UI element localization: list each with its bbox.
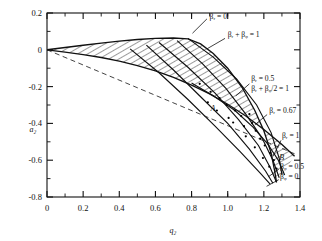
y-axis-label: a₂ [30,125,37,134]
x-axis-label: q₂ [170,226,177,235]
data-point [226,104,228,106]
annotation--0-5: βᵣ = 0.5 [251,74,274,83]
y-tick-label: 0 [38,45,42,55]
annotation--0-5: βᵩ = 0.5 [280,162,304,171]
data-point [199,83,201,85]
data-point [207,101,209,103]
x-tick-label: 0 [45,203,49,213]
data-point [262,157,264,159]
data-point [268,166,270,168]
data-point [259,137,261,139]
data-point [243,125,245,127]
data-point [216,109,218,111]
data-point [264,144,266,146]
data-point [232,121,234,123]
annotation-a: A [210,104,216,113]
data-point [254,146,256,148]
data-point [273,159,275,161]
annotation--1: βᵣ + βᵩ = 1 [228,30,260,39]
y-tick-labels: 0.20-0.2-0.4-0.6-0.8 [29,8,43,202]
annotation--2-1: βᵣ + βᵩ/2 = 1 [251,84,289,93]
stability-diagram-chart: 00.20.40.60.81.01.21.4 0.20-0.2-0.4-0.6-… [0,0,322,241]
y-tick-label: -0.6 [29,155,42,165]
data-point [245,135,247,137]
x-tick-labels: 00.20.40.60.81.01.21.4 [45,203,306,213]
annotation-b: B [279,153,284,162]
y-tick-label: 0.2 [31,8,42,18]
x-tick-label: 1.0 [222,203,233,213]
x-tick-label: 0.2 [78,203,89,213]
y-tick-label: -0.2 [29,82,42,92]
data-point [251,122,253,124]
figure-container: 00.20.40.60.81.01.21.4 0.20-0.2-0.4-0.6-… [0,0,322,241]
y-tick-label: -0.8 [29,192,42,202]
data-point [240,115,242,117]
x-tick-label: 0.4 [114,203,125,213]
annotation--0-67: βᵣ = 0.67 [269,106,296,115]
data-point [228,117,230,119]
annotation--0: βᵣ = 0 [210,12,228,21]
data-point [218,97,220,99]
data-point [269,152,271,154]
x-tick-label: 1.4 [295,203,306,213]
data-point [209,91,211,93]
x-tick-label: 0.6 [150,203,161,213]
x-tick-label: 1.2 [259,203,270,213]
data-point [255,130,257,132]
data-point [234,109,236,111]
data-point [275,167,277,169]
annotation--1: βᵣ = 1 [282,131,300,140]
annotation--0: βᵩ = 0 [280,172,298,181]
data-point [248,113,250,115]
x-tick-label: 0.8 [186,203,197,213]
